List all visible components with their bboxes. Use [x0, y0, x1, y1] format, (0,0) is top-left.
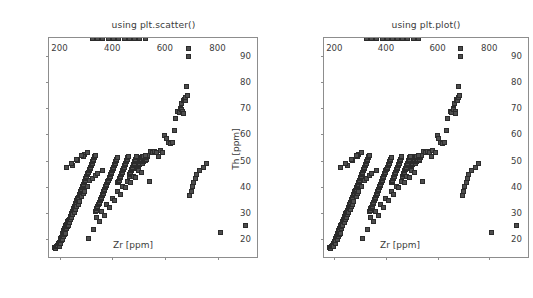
data-point-marker [407, 175, 412, 180]
x-tick-mark [438, 257, 439, 260]
data-point-marker [453, 111, 458, 116]
data-point-marker [118, 192, 123, 197]
data-point-marker [442, 140, 447, 145]
data-point-marker [381, 205, 386, 210]
panel-title: using plt.scatter() [48, 19, 259, 30]
data-point-marker [356, 189, 361, 194]
data-point-marker [132, 38, 137, 41]
data-point-marker [106, 38, 111, 41]
data-point-marker [184, 84, 189, 89]
data-point-marker [91, 227, 96, 232]
data-point-marker [122, 38, 127, 41]
data-point-marker [139, 170, 144, 175]
x-axis-label: Zr [ppm] [0, 240, 266, 250]
data-point-marker [100, 168, 105, 173]
data-point-marker [458, 46, 463, 51]
data-point-marker [458, 54, 463, 59]
data-point-marker [433, 150, 438, 155]
data-point-marker [170, 140, 175, 145]
data-point-marker [82, 189, 87, 194]
data-point-marker [156, 154, 161, 159]
data-point-marker [386, 198, 391, 203]
data-point-marker [420, 179, 425, 184]
plot-area-plot [324, 38, 528, 257]
x-tick-mark [489, 257, 490, 260]
data-point-marker [489, 230, 494, 235]
data-point-marker [371, 219, 376, 224]
axes-scatter: 200400600800 2030405060708090 [48, 37, 258, 258]
data-point-marker [399, 154, 404, 159]
data-point-marker [90, 38, 95, 41]
data-point-marker [391, 192, 396, 197]
x-tick-mark [165, 257, 166, 260]
data-point-marker [412, 170, 417, 175]
x-tick-mark [334, 257, 335, 260]
data-point-marker [107, 205, 112, 210]
data-point-marker [172, 128, 177, 133]
data-point-marker [97, 219, 102, 224]
data-point-marker [514, 223, 519, 228]
data-point-marker [374, 168, 379, 173]
data-point-marker [128, 180, 133, 185]
data-point-marker [95, 171, 100, 176]
x-axis-label: Zr [ppm] [267, 240, 533, 250]
data-point-marker [143, 38, 148, 41]
data-point-marker [181, 111, 186, 116]
subplot-panel-plot: using plt.plot() 200400600800 2030405060… [267, 0, 533, 298]
data-point-marker [100, 38, 105, 41]
data-point-marker [359, 184, 364, 189]
data-point-marker [74, 157, 79, 162]
data-point-marker [173, 116, 178, 121]
data-point-marker [147, 179, 152, 184]
data-point-marker [77, 199, 82, 204]
data-point-marker [69, 161, 74, 166]
x-tick-mark [112, 257, 113, 260]
data-point-marker [186, 54, 191, 59]
data-point-marker [189, 189, 194, 194]
data-point-marker [351, 199, 356, 204]
data-point-marker [95, 38, 100, 41]
data-point-marker [64, 165, 69, 170]
axes-plot: 200400600800 2030405060708090 [323, 37, 529, 258]
x-tick-mark [60, 257, 61, 260]
panel-title: using plt.plot() [323, 19, 529, 30]
data-point-marker [102, 213, 107, 218]
data-point-marker [133, 175, 138, 180]
data-point-marker [126, 154, 131, 159]
data-point-marker [416, 38, 421, 41]
data-point-marker [111, 38, 116, 41]
data-point-marker [79, 153, 84, 158]
x-tick-mark [218, 257, 219, 260]
subplot-panel-scatter: using plt.scatter() 200400600800 2030405… [0, 0, 266, 298]
data-point-marker [123, 185, 128, 190]
matplotlib-figure: using plt.scatter() 200400600800 2030405… [0, 0, 533, 298]
data-point-marker [85, 184, 90, 189]
data-point-marker [137, 38, 142, 41]
data-point-marker [185, 93, 190, 98]
data-point-marker [396, 185, 401, 190]
data-point-marker [243, 223, 248, 228]
y-axis-label: Th [ppm] [231, 108, 241, 149]
data-point-marker [367, 153, 372, 158]
data-point-marker [85, 150, 90, 155]
data-point-marker [112, 198, 117, 203]
data-point-marker [402, 180, 407, 185]
data-point-marker [389, 155, 394, 160]
data-point-marker [359, 150, 364, 155]
data-point-marker [456, 84, 461, 89]
data-point-marker [457, 93, 462, 98]
data-point-marker [93, 153, 98, 158]
data-point-marker [160, 150, 165, 155]
data-point-marker [429, 154, 434, 159]
data-point-marker [376, 213, 381, 218]
data-point-marker [476, 161, 481, 166]
data-point-marker [365, 227, 370, 232]
data-point-marker [115, 155, 120, 160]
plot-area-scatter [49, 38, 257, 257]
data-point-marker [445, 116, 450, 121]
data-point-marker [218, 230, 223, 235]
data-point-marker [116, 38, 121, 41]
data-point-marker [204, 161, 209, 166]
y-axis-label-text: Th [ppm] [231, 128, 241, 169]
data-point-marker [461, 189, 466, 194]
